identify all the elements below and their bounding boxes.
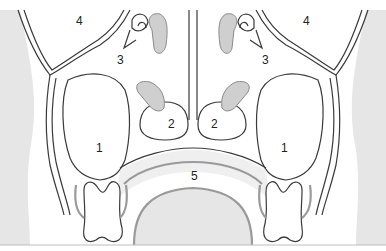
- tongue: [134, 188, 252, 245]
- label-left-4: 4: [76, 14, 83, 28]
- nasal-septum: [189, 10, 197, 120]
- left-maxillary-sinus: [63, 74, 130, 180]
- label-right-4: 4: [303, 14, 310, 28]
- right-zygoma: [322, 75, 340, 215]
- left-orbit-floor: [18, 10, 130, 75]
- soft-tissue-right: [352, 10, 386, 245]
- label-left-3: 3: [117, 53, 124, 67]
- label-right-3: 3: [262, 53, 269, 67]
- right-orbit-floor: [256, 10, 368, 75]
- right-middle-concha: [219, 14, 237, 54]
- right-molar: [259, 182, 310, 242]
- label-center-5: 5: [191, 169, 198, 183]
- anatomical-diagram: 1 1 2 2 3 3 4 4 5: [0, 0, 386, 251]
- left-ethmoid-cells: [124, 14, 148, 48]
- label-right-2: 2: [211, 117, 218, 131]
- right-inferior-concha: [222, 81, 250, 110]
- left-middle-concha: [149, 14, 167, 54]
- right-maxillary-sinus: [256, 74, 323, 180]
- left-inferior-concha: [137, 81, 165, 110]
- label-left-2: 2: [168, 117, 175, 131]
- label-left-1: 1: [96, 141, 103, 155]
- label-right-1: 1: [281, 141, 288, 155]
- left-molar: [75, 182, 126, 242]
- left-zygoma: [46, 75, 64, 215]
- soft-tissue-left: [0, 10, 34, 245]
- right-ethmoid-cells: [238, 14, 262, 48]
